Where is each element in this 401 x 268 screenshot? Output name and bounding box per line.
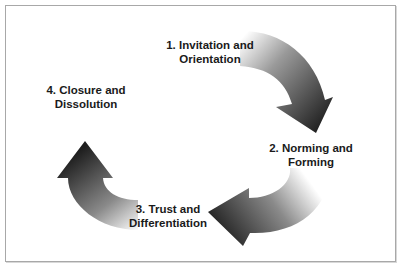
stage-4-line1: 4. Closure and [46, 83, 125, 97]
stage-3-line1: 3. Trust and [129, 202, 207, 216]
stage-2-line1: 2. Norming and [269, 141, 353, 155]
arrow-stage-3-to-4 [57, 141, 138, 230]
stage-4-line2: Dissolution [46, 97, 125, 111]
arrow-stage-1-to-2 [240, 31, 333, 133]
stage-1-line1: 1. Invitation and [166, 38, 254, 52]
stage-3-line2: Differentiation [129, 216, 207, 230]
stage-2-line2: Forming [269, 155, 353, 169]
stage-1-line2: Orientation [166, 52, 254, 66]
stage-3-label: 3. Trust and Differentiation [129, 202, 207, 230]
stage-1-label: 1. Invitation and Orientation [166, 38, 254, 66]
stage-4-label: 4. Closure and Dissolution [46, 83, 125, 111]
arrow-stage-2-to-3 [208, 168, 330, 246]
stage-2-label: 2. Norming and Forming [269, 141, 353, 169]
